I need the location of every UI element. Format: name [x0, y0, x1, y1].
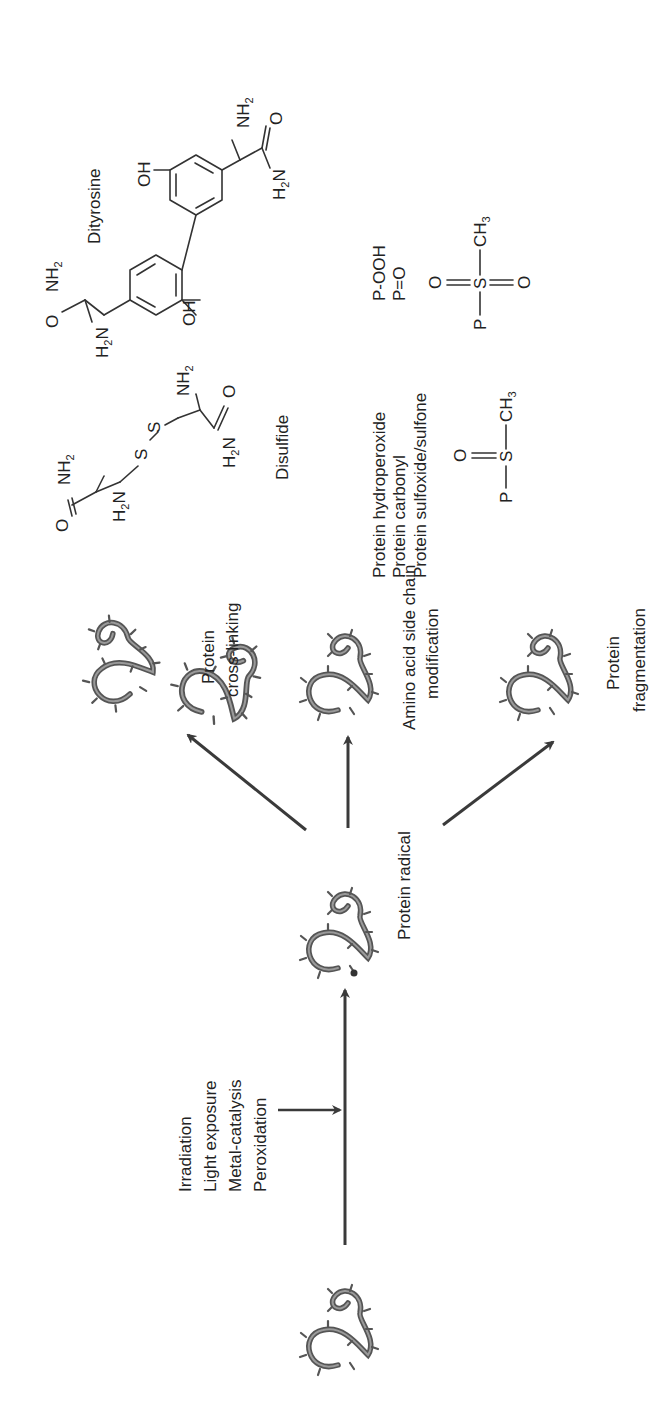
- fragmentation-label-2: fragmentation: [630, 608, 649, 712]
- oxidation-product-names: Protein hydroperoxide Protein carbonyl P…: [370, 245, 430, 578]
- protein-radical: [300, 888, 378, 978]
- stimulus-arrow: [278, 990, 345, 1245]
- sulfoxide-o: O: [451, 449, 470, 462]
- dityrosine-nh2-right: NH2: [234, 97, 255, 128]
- dityrosine-groups: OH OH O NH2 H2N NH2 O H2N: [43, 97, 291, 358]
- side-chain-label-2: modification: [423, 608, 442, 699]
- cross-linking-label-2: cross-linking: [223, 603, 242, 697]
- svg-text:CH3: CH3: [497, 391, 518, 422]
- side-chain-label-1: Amino acid side chain: [400, 565, 419, 730]
- svg-text:H2N: H2N: [110, 491, 131, 522]
- svg-text:H2N: H2N: [93, 327, 114, 358]
- sulfoxide-p: P: [497, 492, 516, 503]
- svg-text:CH3: CH3: [471, 216, 492, 247]
- sulfoxide-structure: P S O CH3: [451, 391, 518, 503]
- disulfide-o-right: O: [220, 385, 239, 398]
- svg-text:NH2: NH2: [174, 365, 195, 396]
- sulfone-ch3: CH3: [471, 216, 492, 247]
- name-sulfoxide-sulfone: Protein sulfoxide/sulfone: [411, 393, 430, 578]
- name-hydroperoxide: Protein hydroperoxide: [370, 412, 389, 578]
- dityrosine-nh2-left: NH2: [43, 261, 64, 292]
- disulfide-atoms: O NH2 H2N S S NH2 O H2N: [53, 365, 241, 532]
- cross-linked-proteins: [62, 605, 280, 742]
- radical-dot-icon: [351, 970, 358, 977]
- disulfide-h2n-left: H2N: [110, 491, 131, 522]
- dityrosine-o-left: O: [43, 315, 62, 328]
- stimulus-irradiation: Irradiation: [176, 1116, 195, 1192]
- svg-text:H2N: H2N: [270, 169, 291, 200]
- disulfide-o-left: O: [53, 519, 72, 532]
- protein-radical-label: Protein radical: [395, 831, 414, 940]
- fragmentation-label-1: Protein: [604, 636, 623, 690]
- side-chain-modified-protein: [300, 630, 378, 720]
- svg-text:NH2: NH2: [55, 454, 76, 485]
- disulfide-nh2-left: NH2: [55, 454, 76, 485]
- sulfone-s: S: [471, 278, 490, 289]
- svg-text:NH2: NH2: [43, 261, 64, 292]
- fragmented-protein: [500, 630, 578, 720]
- disulfide-label: Disulfide: [273, 415, 292, 480]
- svg-text:H2N: H2N: [220, 437, 241, 468]
- cross-linking-label-1: Protein: [199, 630, 218, 684]
- sulfoxide-s: S: [497, 451, 516, 462]
- dityrosine-h2n-right: H2N: [270, 169, 291, 200]
- sulfone-p: P: [471, 319, 490, 330]
- stimulus-metal-catalysis: Metal-catalysis: [226, 1080, 245, 1192]
- dityrosine-oh-2: OH: [135, 162, 154, 188]
- stimulus-light-exposure: Light exposure: [201, 1080, 220, 1192]
- sulfoxide-ch3: CH3: [497, 391, 518, 422]
- sulfone-o-1: O: [426, 276, 445, 289]
- dityrosine-oh-1: OH: [180, 301, 199, 327]
- sulfone-o-2: O: [515, 276, 534, 289]
- protein-oxidation-diagram: Irradiation Light exposure Metal-catalys…: [0, 0, 653, 1423]
- product-arrows: [188, 735, 553, 830]
- dityrosine-h2n-left: H2N: [93, 327, 114, 358]
- stimulus-peroxidation: Peroxidation: [251, 1097, 270, 1192]
- name-carbonyl: Protein carbonyl: [390, 455, 409, 578]
- native-protein: [300, 1285, 378, 1375]
- disulfide-s-2: S: [145, 422, 164, 433]
- sulfone-structure: P S O O CH3: [426, 216, 534, 330]
- stimuli-list: Irradiation Light exposure Metal-catalys…: [176, 1080, 270, 1192]
- disulfide-nh2-right: NH2: [174, 365, 195, 396]
- abbr-po: P=O: [390, 267, 409, 302]
- disulfide-s-1: S: [132, 449, 151, 460]
- disulfide-h2n-right: H2N: [220, 437, 241, 468]
- svg-text:NH2: NH2: [234, 97, 255, 128]
- dityrosine-o-right: O: [267, 112, 286, 125]
- dityrosine-label: Dityrosine: [85, 168, 104, 244]
- abbr-pooh: P-OOH: [370, 245, 389, 301]
